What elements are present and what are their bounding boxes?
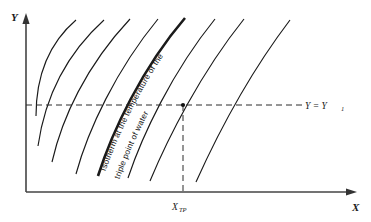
y-axis-arrowhead-icon xyxy=(22,13,29,24)
x-tick-label: X xyxy=(171,202,179,212)
y-axis-label: Y xyxy=(11,11,19,23)
isotherm-curve-4 xyxy=(76,19,158,174)
isotherm-curve-1 xyxy=(36,20,76,116)
level-line-label-group: Y = Y 1 xyxy=(305,101,344,112)
isotherm-curve-group xyxy=(36,18,290,182)
x-tick-label-group: X TP xyxy=(171,202,187,213)
isotherm-curve-8 xyxy=(196,20,290,182)
isotherm-curve-6 xyxy=(128,19,215,178)
x-axis-label: X xyxy=(351,201,360,213)
isotherm-figure: Y X Isotherm at the temperature of th xyxy=(0,0,371,222)
x-axis-arrowhead-icon xyxy=(346,188,357,195)
y-axis: Y xyxy=(11,11,30,192)
isotherm-diagram-canvas: Y X Isotherm at the temperature of th xyxy=(0,0,371,222)
level-line-label-subscript: 1 xyxy=(341,105,344,112)
isotherm-annotation-line-1: Isotherm at the temperature of the xyxy=(99,52,165,172)
triple-point-marker xyxy=(181,103,185,107)
isotherm-curve-2 xyxy=(38,20,104,146)
level-line-label: Y = Y xyxy=(305,101,328,111)
x-tick-label-subscript: TP xyxy=(179,206,187,213)
x-axis: X xyxy=(26,188,360,213)
